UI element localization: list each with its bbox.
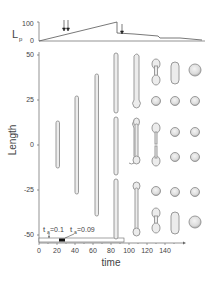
dumbbells-t110 — [152, 59, 161, 233]
arrow-icon — [63, 20, 124, 34]
svg-text:140: 140 — [159, 247, 171, 254]
annotation-ta-0.09: t a =0.09 — [65, 225, 95, 238]
timeline-bar — [39, 238, 124, 242]
filament-t75-bot — [114, 179, 118, 239]
svg-text:20: 20 — [53, 247, 61, 254]
svg-text:t: t — [70, 225, 73, 234]
svg-text:25: 25 — [26, 96, 34, 103]
timeline-highlight — [59, 239, 65, 242]
svg-text:40: 40 — [71, 247, 79, 254]
svg-text:0: 0 — [30, 141, 34, 148]
filament-t30 — [75, 96, 79, 194]
filament-t10 — [56, 121, 60, 168]
droplets-t140 — [189, 64, 201, 228]
svg-text:=0.09: =0.09 — [77, 226, 95, 233]
filament-t75-top — [114, 53, 118, 113]
top-ylabel-sub: p — [19, 36, 23, 42]
filament-t50 — [95, 74, 99, 216]
svg-text:80: 80 — [107, 247, 115, 254]
main-panel: Length 50 25 0 -25 -50 — [7, 51, 201, 268]
svg-text:0: 0 — [37, 247, 41, 254]
svg-text:t: t — [43, 225, 46, 234]
top-ylabel: L — [12, 28, 18, 40]
svg-text:100: 100 — [123, 247, 135, 254]
svg-text:50: 50 — [26, 51, 34, 58]
svg-text:60: 60 — [89, 247, 97, 254]
y-tick-labels: 50 25 0 -25 -50 — [24, 51, 34, 238]
top-ytick-0: 0 — [30, 37, 34, 44]
x-tick-labels: 0 20 40 60 80 100 120 140 — [37, 247, 171, 254]
svg-text:-25: -25 — [24, 186, 34, 193]
top-ytick-100: 100 — [22, 20, 34, 27]
chart-svg: L p 100 0 Length 50 25 0 -25 -50 — [0, 0, 223, 284]
capsules-t125 — [171, 62, 180, 234]
filament-shapes — [56, 53, 201, 239]
top-panel: L p 100 0 — [12, 20, 205, 44]
filament-t75-mid — [114, 117, 118, 175]
svg-text:=0.1: =0.1 — [50, 226, 64, 233]
y-axis-label: Length — [7, 125, 18, 156]
figure: L p 100 0 Length 50 25 0 -25 -50 — [0, 0, 223, 284]
svg-text:120: 120 — [141, 247, 153, 254]
annotation-ta-0.1: t a =0.1 — [43, 225, 64, 238]
x-axis-label: time — [102, 257, 121, 268]
svg-text:-50: -50 — [24, 231, 34, 238]
filament-t95 — [129, 54, 141, 236]
